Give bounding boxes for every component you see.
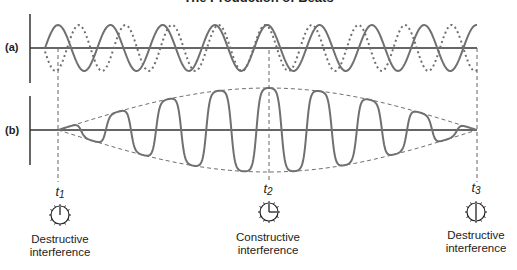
clock-icon-12 xyxy=(49,204,71,226)
time-label-t3: t3 xyxy=(471,180,480,196)
time-marker-lines xyxy=(58,48,477,182)
caption-t1: Destructive interference xyxy=(30,233,91,259)
caption-t3: Destructive interference xyxy=(446,229,507,255)
caption-t2: Constructive interference xyxy=(236,231,300,257)
time-label-t1: t1 xyxy=(55,184,64,200)
clock-icon-6 xyxy=(465,201,487,223)
panel-a-label: (a) xyxy=(5,41,18,53)
panel-b-label: (b) xyxy=(5,124,19,136)
beats-diagram xyxy=(0,0,517,270)
time-label-t2: t2 xyxy=(263,181,272,197)
clock-icon-3 xyxy=(258,201,280,223)
envelope-bottom xyxy=(58,130,476,172)
envelope-top xyxy=(58,88,476,130)
